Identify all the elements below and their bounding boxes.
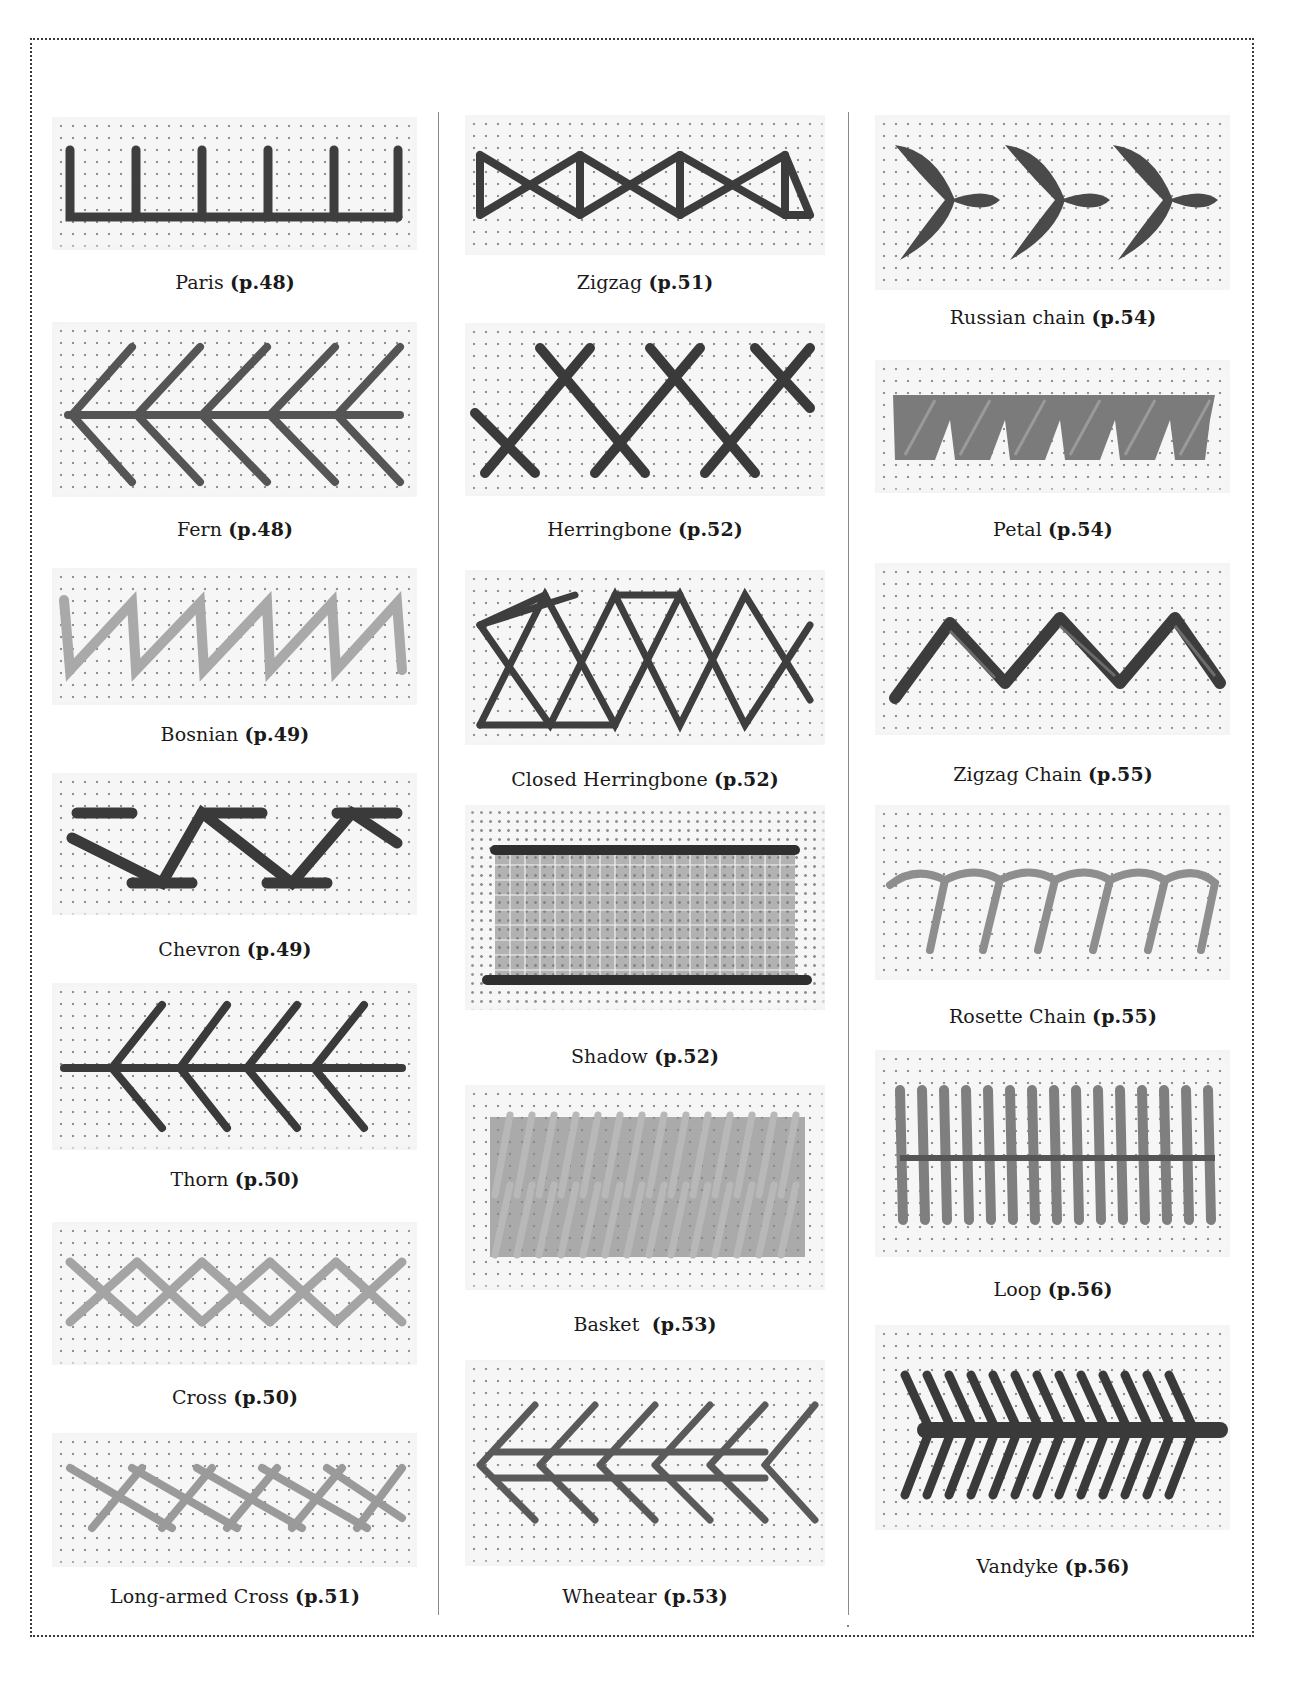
stitch-label: Rosette Chain (p.55) bbox=[853, 1005, 1253, 1027]
page-reference: (p.52) bbox=[654, 1045, 719, 1067]
chevron-stitch-sample bbox=[52, 773, 417, 915]
page-reference: (p.51) bbox=[295, 1585, 360, 1607]
russian-chain-stitch-sample bbox=[875, 115, 1230, 290]
page-reference: (p.50) bbox=[235, 1168, 300, 1190]
stitch-name: Zigzag Chain bbox=[953, 763, 1082, 785]
stitch-name: Fern bbox=[177, 518, 222, 540]
stitch-label: Bosnian (p.49) bbox=[35, 723, 435, 745]
stitch-label: Herringbone (p.52) bbox=[445, 518, 845, 540]
rosette-chain-stitch-sample bbox=[875, 805, 1230, 980]
stitch-name: Rosette Chain bbox=[949, 1005, 1086, 1027]
herringbone-stitch-sample bbox=[465, 323, 825, 496]
page-reference: (p.54) bbox=[1048, 518, 1113, 540]
page-reference: (p.55) bbox=[1088, 763, 1153, 785]
stitch-label: Paris (p.48) bbox=[35, 271, 435, 293]
stitch-label: Fern (p.48) bbox=[35, 518, 435, 540]
page-reference: (p.52) bbox=[714, 768, 779, 790]
page-reference: (p.52) bbox=[678, 518, 743, 540]
stitch-name: Herringbone bbox=[547, 518, 672, 540]
stitch-name: Cross bbox=[172, 1386, 227, 1408]
page-reference: (p.55) bbox=[1092, 1005, 1157, 1027]
stitch-name: Bosnian bbox=[161, 723, 239, 745]
zigzag-stitch-sample bbox=[465, 115, 825, 255]
closed-herringbone-stitch-sample bbox=[465, 570, 825, 745]
page-reference: (p.51) bbox=[648, 271, 713, 293]
page-reference: (p.49) bbox=[247, 938, 312, 960]
stitch-name: Zigzag bbox=[577, 271, 643, 293]
page-reference: (p.48) bbox=[230, 271, 295, 293]
vandyke-stitch-sample bbox=[875, 1325, 1230, 1530]
stitch-name: Wheatear bbox=[562, 1585, 656, 1607]
thorn-stitch-sample bbox=[52, 983, 417, 1150]
page-reference: (p.48) bbox=[228, 518, 293, 540]
stitch-label: Wheatear (p.53) bbox=[445, 1585, 845, 1607]
column-divider-right bbox=[848, 112, 849, 1615]
stitch-label: Basket (p.53) bbox=[445, 1313, 845, 1335]
column-divider-left bbox=[438, 112, 439, 1615]
stitch-label: Zigzag (p.51) bbox=[445, 271, 845, 293]
cross-stitch-sample bbox=[52, 1222, 417, 1365]
stitch-name: Thorn bbox=[170, 1168, 228, 1190]
stitch-label: Russian chain (p.54) bbox=[853, 306, 1253, 328]
loop-stitch-sample bbox=[875, 1050, 1230, 1257]
stitch-label: Petal (p.54) bbox=[853, 518, 1253, 540]
page-reference: (p.50) bbox=[233, 1386, 298, 1408]
page-reference: (p.53) bbox=[652, 1313, 717, 1335]
page-reference: (p.54) bbox=[1091, 306, 1156, 328]
stitch-label: Loop (p.56) bbox=[853, 1278, 1253, 1300]
stitch-label: Vandyke (p.56) bbox=[853, 1555, 1253, 1577]
page-reference: (p.53) bbox=[663, 1585, 728, 1607]
stitch-label: Long-armed Cross (p.51) bbox=[35, 1585, 435, 1607]
stitch-label: Thorn (p.50) bbox=[35, 1168, 435, 1190]
stitch-name: Shadow bbox=[571, 1045, 648, 1067]
paris-stitch-sample bbox=[52, 117, 417, 250]
stitch-label: Zigzag Chain (p.55) bbox=[853, 763, 1253, 785]
shadow-stitch-sample bbox=[465, 805, 825, 1010]
page-reference: (p.56) bbox=[1065, 1555, 1130, 1577]
wheatear-stitch-sample bbox=[465, 1360, 825, 1566]
zigzag-chain-stitch-sample bbox=[875, 563, 1230, 735]
print-mark bbox=[847, 1625, 849, 1627]
fern-stitch-sample bbox=[52, 322, 417, 497]
stitch-name: Closed Herringbone bbox=[511, 768, 708, 790]
stitch-name: Vandyke bbox=[977, 1555, 1059, 1577]
page-reference: (p.56) bbox=[1048, 1278, 1113, 1300]
stitch-name: Chevron bbox=[158, 938, 240, 960]
stitch-name: Basket bbox=[573, 1313, 645, 1335]
long-armed-cross-stitch-sample bbox=[52, 1433, 417, 1567]
stitch-label: Chevron (p.49) bbox=[35, 938, 435, 960]
stitch-name: Petal bbox=[993, 518, 1042, 540]
stitch-name: Long-armed Cross bbox=[110, 1585, 289, 1607]
page-reference: (p.49) bbox=[244, 723, 309, 745]
basket-stitch-sample bbox=[465, 1085, 825, 1290]
petal-stitch-sample bbox=[875, 360, 1230, 493]
stitch-name: Paris bbox=[175, 271, 224, 293]
bosnian-stitch-sample bbox=[52, 568, 417, 705]
stitch-label: Shadow (p.52) bbox=[445, 1045, 845, 1067]
stitch-name: Russian chain bbox=[950, 306, 1086, 328]
stitch-label: Closed Herringbone (p.52) bbox=[445, 768, 845, 790]
stitch-name: Loop bbox=[993, 1278, 1041, 1300]
stitch-label: Cross (p.50) bbox=[35, 1386, 435, 1408]
